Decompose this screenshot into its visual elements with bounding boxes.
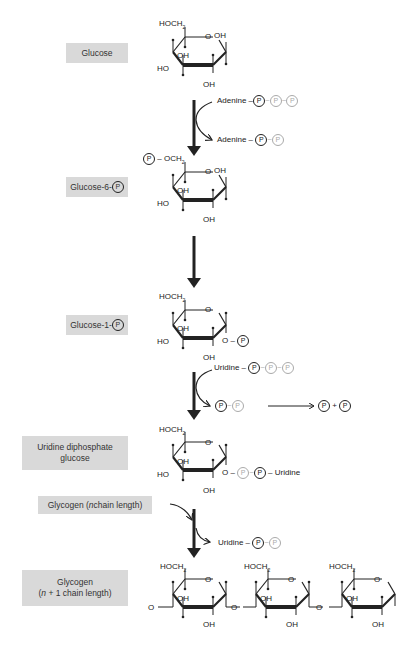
hoch2-label: HOCH2: [329, 562, 355, 575]
oh-label: OH: [214, 31, 226, 40]
oh-label: OH: [203, 486, 215, 495]
glycogen-ring-2: [243, 569, 323, 618]
oh-label: OH: [346, 594, 358, 603]
ring-o-label: O: [205, 438, 211, 447]
ring-o-label: O: [288, 575, 294, 584]
atp-label: Adenine –P~P~P: [217, 95, 298, 107]
oh-label: OH: [177, 457, 189, 466]
ring-o-label: O: [205, 32, 211, 41]
oh-label: OH: [177, 51, 189, 60]
oh-label: OH: [214, 166, 226, 175]
oh-label: OH: [177, 594, 189, 603]
o-p-label: O – P: [222, 335, 249, 347]
oh-label: OH: [260, 594, 272, 603]
ho-label: HO: [157, 470, 169, 479]
ring-o-label: O: [205, 167, 211, 176]
oh-label: OH: [372, 620, 384, 629]
utp-label: Uridine – P~P~P: [214, 362, 294, 374]
hoch2-label: HOCH2: [159, 19, 185, 32]
udp-label: Uridine – P~P: [218, 537, 281, 549]
hoch2-label: HOCH2: [244, 562, 270, 575]
oh-label: OH: [286, 620, 298, 629]
glycosidic-o-label: O: [316, 603, 322, 612]
hoch2-label: HOCH2: [159, 425, 185, 438]
oh-label: OH: [203, 215, 215, 224]
ring-o-label: O: [374, 575, 380, 584]
oh-label: OH: [203, 620, 215, 629]
hoch2-label: HOCH2: [159, 292, 185, 305]
oh-label: OH: [177, 186, 189, 195]
udpg-tail-label: O – P~P – Uridine: [222, 467, 300, 479]
pyrophosphate-label: P~P: [215, 400, 244, 412]
oh-label: OH: [203, 80, 215, 89]
oh-label: OH: [203, 353, 215, 362]
glycogen-ring-3: [329, 569, 395, 618]
glycosidic-o-label: O: [231, 603, 237, 612]
ho-label: HO: [157, 337, 169, 346]
ring-o-label: O: [205, 305, 211, 314]
glycogen-ring-1: [158, 569, 240, 618]
two-phosphate-label: P + P: [318, 400, 351, 412]
ho-label: HO: [157, 199, 169, 208]
oh-label: OH: [177, 324, 189, 333]
ring-o-label: O: [205, 575, 211, 584]
hoch2-label: HOCH2: [160, 562, 186, 575]
glycosidic-o-label: O: [148, 603, 154, 612]
g6p-p-och2-label: P – OCH2: [143, 153, 184, 167]
adp-label: Adenine – P~P: [217, 134, 284, 146]
pathway-drawing: [0, 0, 408, 649]
ho-label: HO: [157, 64, 169, 73]
